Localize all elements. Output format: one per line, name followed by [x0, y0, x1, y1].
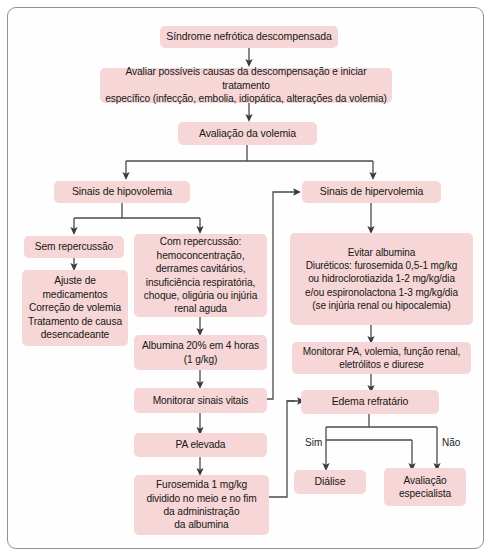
node-edema-refratario: Edema refratário	[301, 390, 439, 414]
flowchart-page: Síndrome nefrótica descompensada Avaliar…	[0, 0, 493, 559]
node-evitar-albumina: Evitar albumina Diuréticos: furosemida 0…	[290, 233, 473, 325]
edge-label-nao: Não	[442, 437, 460, 448]
node-dialise: Diálise	[294, 470, 366, 494]
node-avaliacao-especialista: Avaliação especialista	[384, 468, 466, 506]
node-furosemida: Furosemida 1 mg/kg dividido no meio e no…	[134, 475, 269, 535]
node-avaliacao-volemia: Avaliação da volemia	[178, 122, 317, 145]
node-sinais-hipervolemia: Sinais de hipervolemia	[302, 181, 441, 203]
node-albumina-20: Albumina 20% em 4 horas (1 g/kg)	[134, 335, 267, 370]
diagram-canvas: Síndrome nefrótica descompensada Avaliar…	[0, 0, 493, 559]
node-sinais-hipovolemia: Sinais de hipovolemia	[54, 181, 190, 203]
node-pa-elevada: PA elevada	[134, 433, 267, 457]
node-monitorar-sinais-vitais: Monitorar sinais vitais	[134, 388, 267, 413]
node-monitorar-pa: Monitorar PA, volemia, função renal, ele…	[292, 342, 471, 374]
node-com-repercussao: Com repercussão: hemoconcentração, derra…	[134, 234, 267, 317]
node-sindrome-nefrotica: Síndrome nefrótica descompensada	[160, 26, 338, 48]
node-sem-repercussao: Sem repercussão	[24, 236, 124, 258]
node-avaliar-causas: Avaliar possíveis causas da descompensaç…	[100, 68, 392, 103]
node-ajuste-medicamentos: Ajuste de medicamentos Correção de volem…	[22, 270, 128, 346]
edge-label-sim: Sim	[305, 437, 322, 448]
